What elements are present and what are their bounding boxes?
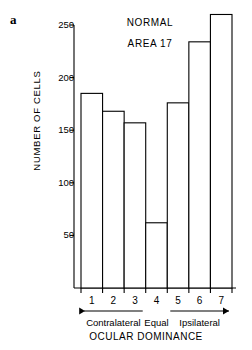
ocular-dominance-histogram: a NORMAL AREA 17 NUMBER OF CELLS 5010015…: [0, 0, 252, 350]
x-tick-label: 1: [85, 296, 99, 306]
x-tick-label: 7: [214, 296, 228, 306]
x-axis-label: OCULAR DOMINANCE: [56, 332, 236, 342]
bar: [81, 93, 103, 288]
x-tick-label: 6: [193, 296, 207, 306]
bar: [146, 223, 168, 288]
x-tick-label: 4: [150, 296, 164, 306]
x-tick-label: 5: [171, 296, 185, 306]
x-tick-label: 2: [106, 296, 120, 306]
bar: [124, 123, 146, 288]
zone-label-ipsilateral: Ipsilateral: [160, 318, 240, 328]
bar: [103, 111, 125, 288]
bar: [210, 14, 232, 288]
bars-group: [81, 14, 232, 288]
x-tick-label: 3: [128, 296, 142, 306]
bar: [189, 42, 211, 288]
bar: [167, 103, 189, 288]
x-axis-ticks: [81, 288, 232, 293]
